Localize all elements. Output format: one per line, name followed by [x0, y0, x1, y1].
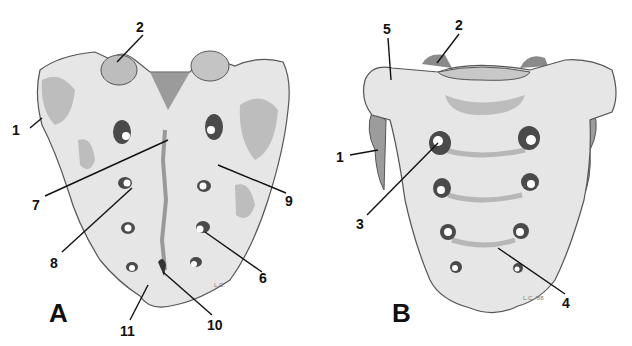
callout-A-6: 6: [259, 270, 267, 286]
svg-text:L.C. '88: L.C. '88: [523, 295, 544, 301]
callout-A-2: 2: [136, 19, 144, 35]
sacrum-illustration: L.C. L.C. '88: [0, 0, 632, 346]
callout-B-4: 4: [562, 295, 570, 311]
callout-A-8: 8: [50, 255, 58, 271]
callout-A-9: 9: [285, 193, 293, 209]
svg-text:L.C.: L.C.: [214, 282, 225, 288]
panel-label-a: A: [49, 298, 68, 328]
callout-B-2: 2: [455, 17, 463, 33]
callout-A-11: 11: [120, 323, 135, 339]
callout-A-7: 7: [32, 197, 40, 213]
sacrum-anterior-view: L.C. '88: [364, 54, 616, 312]
callout-B-1: 1: [336, 149, 344, 165]
callout-B-5: 5: [383, 21, 391, 37]
callout-A-1: 1: [12, 122, 20, 138]
callout-B-3: 3: [356, 216, 364, 232]
callout-A-10: 10: [207, 317, 223, 333]
panel-label-b: B: [392, 298, 411, 328]
